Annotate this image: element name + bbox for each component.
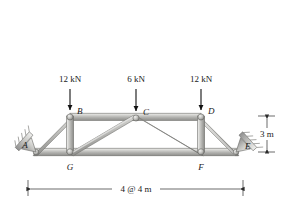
joint-pin-g — [67, 149, 73, 155]
member-df — [198, 116, 205, 153]
node-label-g: G — [67, 162, 74, 172]
truss-members — [33, 113, 239, 156]
member-bg — [67, 116, 74, 153]
node-label-b: B — [77, 106, 83, 116]
dimension-height: 3 m — [258, 116, 275, 152]
dimension-span-label: 4 @ 4 m — [120, 184, 151, 194]
load-label-c: 6 kN — [127, 74, 145, 84]
load-label-d: 12 kN — [190, 74, 213, 84]
joint-pin-f — [198, 149, 204, 155]
joint-pin-b — [67, 114, 73, 120]
member-bottom-chord — [34, 148, 238, 156]
node-label-d: D — [207, 106, 215, 116]
node-label-c: C — [143, 107, 150, 117]
load-label-b: 12 kN — [59, 74, 82, 84]
node-label-a: A — [21, 140, 28, 150]
dimension-height-label: 3 m — [260, 129, 274, 139]
dimension-span: 4 @ 4 m — [28, 180, 243, 196]
truss-figure: 12 kN 6 kN 12 kN A B C D E F G 3 m 4 @ 4… — [0, 0, 288, 211]
joint-pin-d — [198, 114, 204, 120]
node-label-e: E — [244, 141, 251, 151]
node-label-f: F — [197, 162, 204, 172]
joint-pin-c — [133, 115, 139, 121]
load-arrows — [70, 89, 201, 111]
